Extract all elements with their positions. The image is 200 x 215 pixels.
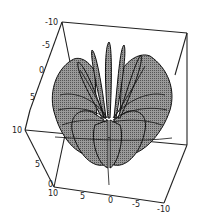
- tick-label: 10: [48, 189, 58, 198]
- axis-left-vertical: -10 -5 0 5 10: [12, 18, 58, 135]
- tick-label: -10: [157, 205, 170, 214]
- tick-label: -10: [45, 18, 58, 27]
- tick-label: 5: [30, 93, 35, 102]
- tick-label: 10: [12, 126, 22, 135]
- tick-label: -5: [42, 41, 50, 50]
- tick-label: 0: [39, 66, 44, 75]
- axis-front-left: 5 0: [35, 160, 53, 189]
- tick-label: 5: [80, 192, 85, 201]
- surface-body: [52, 42, 172, 185]
- surface-plot: -10 -5 0 5 10 5 0 10 5 0 -5 -10: [0, 0, 200, 215]
- tick-label: 0: [108, 196, 113, 205]
- tick-label: 0: [48, 180, 53, 189]
- tick-label: -5: [132, 200, 140, 209]
- tick-label: 5: [35, 160, 40, 169]
